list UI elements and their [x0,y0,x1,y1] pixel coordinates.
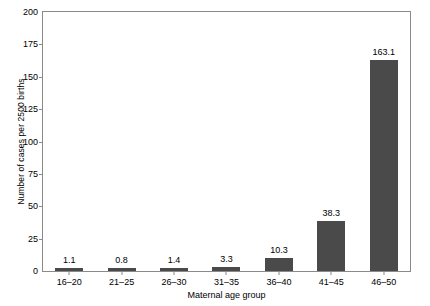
x-tick-mark [278,271,279,275]
bar-value-label: 0.8 [115,255,128,265]
bar [317,221,345,271]
x-tick-label: 16–20 [57,277,82,287]
x-tick-mark [121,271,122,275]
x-tick-mark [226,271,227,275]
bar-group: 10.336–40 [253,12,305,271]
plot-area: 0255075100125150175200 1.116–200.821–251… [42,11,411,272]
x-tick-mark [331,271,332,275]
x-tick-mark [69,271,70,275]
x-tick-label: 31–35 [214,277,239,287]
bar-value-label: 10.3 [270,245,288,255]
bar-group: 163.146–50 [358,12,410,271]
bar-value-label: 1.4 [168,255,181,265]
bar-value-label: 3.3 [220,254,233,264]
y-tick-label: 0 [33,266,43,276]
y-tick-label: 200 [23,7,43,17]
x-tick-label: 46–50 [371,277,396,287]
bar [370,60,398,271]
bar-group: 1.426–30 [148,12,200,271]
bar [265,258,293,271]
x-tick-label: 26–30 [162,277,187,287]
bar-value-label: 38.3 [323,208,341,218]
bar-group: 1.116–20 [43,12,95,271]
x-axis-title: Maternal age group [42,290,411,300]
bar-value-label: 1.1 [63,255,76,265]
bar-group: 38.341–45 [305,12,357,271]
x-tick-mark [383,271,384,275]
bar-chart-figure: Number of cases per 2500 births 02550751… [0,0,430,306]
x-tick-label: 21–25 [109,277,134,287]
x-tick-label: 36–40 [266,277,291,287]
x-tick-label: 41–45 [319,277,344,287]
bar-series: 1.116–200.821–251.426–303.331–3510.336–4… [43,12,410,271]
bar-group: 0.821–25 [95,12,147,271]
x-tick-mark [174,271,175,275]
bar-group: 3.331–35 [200,12,252,271]
bar-value-label: 163.1 [373,47,396,57]
